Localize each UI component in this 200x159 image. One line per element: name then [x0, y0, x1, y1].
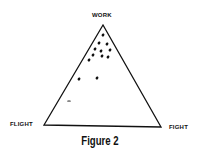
data-point [99, 49, 103, 53]
vertex-label-fight: FIGHT [169, 124, 188, 130]
data-point [67, 100, 71, 101]
data-points [67, 33, 112, 102]
data-point [101, 33, 105, 37]
vertex-label-flight: FLIGHT [10, 121, 33, 127]
data-point [106, 55, 110, 59]
data-point [77, 77, 81, 81]
data-point [93, 47, 97, 51]
data-point [100, 54, 104, 58]
vertex-label-work: WORK [92, 12, 112, 18]
triangle-outline [44, 25, 161, 127]
data-point [95, 76, 99, 80]
data-point [87, 58, 91, 62]
data-point [108, 48, 112, 52]
figure-caption: Figure 2 [20, 134, 180, 148]
data-point [97, 41, 101, 45]
data-point [91, 53, 95, 57]
data-point [105, 42, 109, 46]
